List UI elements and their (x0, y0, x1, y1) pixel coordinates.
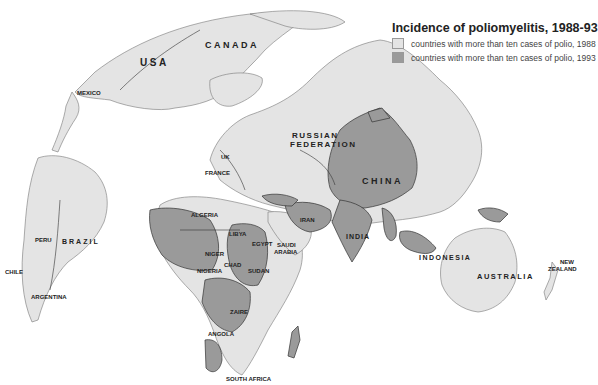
label-sudan: SUDAN (248, 268, 269, 274)
label-new-zealand-1: NEW (560, 259, 574, 265)
label-iran: IRAN (300, 217, 315, 223)
legend-item-1988: countries with more than ten cases of po… (392, 38, 598, 49)
label-usa: USA (140, 57, 169, 68)
label-saudi-arabia-1: SAUDI (277, 242, 296, 248)
label-australia: AUSTRALIA (477, 272, 534, 281)
central-america (52, 92, 79, 152)
label-south-africa: SOUTH AFRICA (226, 376, 271, 382)
label-indonesia: INDONESIA (419, 254, 471, 261)
legend-label-1993: countries with more than ten cases of po… (411, 53, 596, 63)
legend-title: Incidence of poliomyelitis, 1988-93 (392, 21, 598, 35)
label-new-zealand-2: ZEALAND (548, 266, 577, 272)
label-canada: CANADA (205, 40, 259, 50)
madagascar (288, 326, 300, 358)
legend-label-1988: countries with more than ten cases of po… (411, 39, 596, 49)
label-chile: CHILE (5, 269, 23, 275)
indonesia-region (399, 231, 436, 254)
label-peru: PERU (35, 237, 52, 243)
swatch-1993 (392, 52, 404, 63)
png-region (478, 208, 508, 222)
label-mexico: MEXICO (77, 90, 101, 96)
label-angola: ANGOLA (208, 331, 234, 337)
swatch-1988 (392, 38, 404, 49)
label-zaire: ZAIRE (230, 309, 248, 315)
label-uk: UK (221, 154, 230, 160)
label-libya: LIBYA (229, 231, 246, 237)
label-brazil: BRAZIL (62, 238, 100, 245)
label-argentina: ARGENTINA (31, 294, 67, 300)
label-india: INDIA (346, 233, 370, 240)
australia (441, 228, 517, 312)
north-america (75, 12, 308, 109)
label-niger: NIGER (205, 251, 224, 257)
legend: Incidence of poliomyelitis, 1988-93 coun… (392, 21, 598, 63)
label-saudi-arabia-2: ARABIA (274, 249, 297, 255)
label-france: FRANCE (205, 170, 230, 176)
label-algeria: ALGERIA (191, 212, 218, 218)
label-russian-federation-1: RUSSIAN (292, 131, 339, 140)
legend-item-1993: countries with more than ten cases of po… (392, 52, 598, 63)
label-chad: CHAD (224, 262, 241, 268)
greenland (210, 73, 263, 106)
label-nigeria: NIGERIA (197, 268, 222, 274)
label-china: CHINA (362, 176, 403, 186)
label-egypt: EGYPT (252, 241, 272, 247)
label-russian-federation-2: FEDERATION (290, 140, 356, 149)
